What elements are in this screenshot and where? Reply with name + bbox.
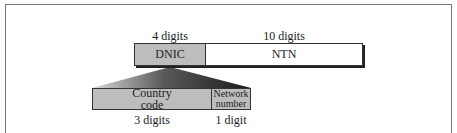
dnic-label: DNIC xyxy=(155,47,184,62)
ntn-label: NTN xyxy=(272,47,297,62)
country-code-size-label: 3 digits xyxy=(92,114,212,126)
wedge-shape xyxy=(92,67,251,88)
country-code-field: Country code xyxy=(92,88,212,110)
dnic-field: DNIC xyxy=(134,43,206,66)
network-number-label-line2: number xyxy=(216,99,247,109)
country-code-label-line2: code xyxy=(141,99,164,111)
network-number-size-label: 1 digit xyxy=(211,114,251,126)
network-number-field: Network number xyxy=(211,88,251,110)
ntn-field: NTN xyxy=(205,43,363,66)
